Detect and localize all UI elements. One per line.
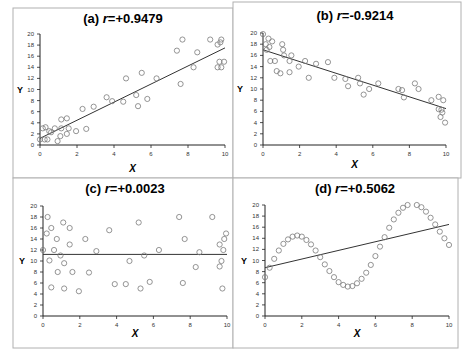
y-tick-label: 20 [30,203,37,209]
y-tick-label: 16 [250,52,257,58]
y-tick-label: 12 [250,75,257,81]
y-tick-label: 12 [27,75,34,81]
x-tick-label: 10 [224,322,231,328]
y-tick-label: 20 [252,202,259,208]
panel-c: (c) r=+0.0023024681012141618200246810XY [13,178,233,348]
y-tick-label: 18 [250,41,257,47]
panel-border [13,8,233,178]
panel-title: (c) r=+0.0023 [85,181,165,196]
panel-title: (d) r=+0.5062 [315,181,395,196]
y-tick-label: 16 [27,53,34,59]
panels-container: (a) r=+0.9479024681012141618200246810XY(… [13,2,461,348]
y-tick-label: 12 [252,246,259,252]
panel-border [13,178,233,348]
y-tick-label: 10 [30,258,37,264]
panel-title: (b) r=-0.9214 [317,8,395,23]
y-tick-label: 12 [30,247,37,253]
panel-b: (b) r=-0.9214024681012141618200246810XY [233,2,461,178]
y-tick-label: 16 [252,224,259,230]
y-axis-label: Y [19,256,25,266]
x-axis-label: X [131,328,140,339]
y-tick-label: 14 [250,64,257,70]
x-axis-label: X [350,159,359,170]
panel-border [233,2,461,178]
y-tick-label: 10 [250,86,257,92]
panel-border [233,178,458,348]
x-tick-label: 10 [222,151,229,157]
y-tick-label: 10 [252,258,259,264]
y-tick-label: 18 [27,42,34,48]
y-axis-label: Y [237,84,243,94]
y-tick-label: 14 [27,64,34,70]
y-axis-label: Y [17,85,23,95]
correlation-figure: (a) r=+0.9479024681012141618200246810XY(… [0,0,466,360]
y-tick-label: 20 [250,30,257,36]
y-tick-label: 20 [27,31,34,37]
panel-title: (a) r=+0.9479 [83,11,163,26]
y-tick-label: 18 [30,214,37,220]
panel-a: (a) r=+0.9479024681012141618200246810XY [13,8,233,178]
y-tick-label: 14 [30,236,37,242]
x-axis-label: X [353,328,362,339]
x-axis-label: X [128,163,137,174]
y-tick-label: 10 [27,87,34,93]
y-tick-label: 18 [252,213,259,219]
panel-d: (d) r=+0.5062024681012141618200246810XY [233,178,458,348]
y-tick-label: 16 [30,225,37,231]
x-tick-label: 10 [446,322,453,328]
x-tick-label: 10 [443,151,450,157]
y-axis-label: Y [241,256,247,266]
y-tick-label: 14 [252,235,259,241]
